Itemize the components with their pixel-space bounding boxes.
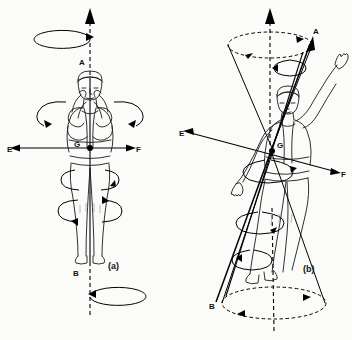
precession-cone-bottom-b: [222, 154, 326, 319]
axis-label-f-right: F: [136, 145, 141, 154]
centre-of-gravity-point: [269, 148, 275, 154]
panel-a: A B E F G (a): [7, 8, 146, 318]
transverse-axis-ef-a: [10, 145, 136, 152]
vertical-axis-arrowhead-b: [265, 8, 275, 24]
rotation-indicator-top-a: [34, 30, 94, 48]
figure-diagram: A B E F G (a): [0, 0, 352, 340]
axis-label-a-top: A: [79, 58, 85, 67]
centre-of-gravity-label: G: [277, 141, 283, 150]
rotation-indicator-bottom-a: [88, 287, 146, 305]
rotation-indicator-waist-b: [243, 160, 297, 183]
axis-label-e-left: E: [7, 145, 13, 154]
axis-arrowhead-a-top: [85, 8, 95, 24]
axis-label-f-right: F: [341, 170, 346, 179]
axis-label-b-bottom: B: [209, 302, 215, 311]
axis-label-e-left: E: [179, 129, 185, 138]
longitudinal-axis-ab-a: [85, 8, 95, 318]
transverse-axis-ef-b: [183, 128, 341, 175]
centre-of-gravity-label: G: [74, 140, 80, 149]
diagram-canvas: A B E F G (a): [0, 0, 352, 340]
human-figure-b: [231, 54, 348, 284]
panel-caption-b: (b): [303, 264, 315, 274]
panel-b: A B E F G (b): [179, 8, 348, 332]
axis-arrowhead-b-top: [306, 36, 315, 52]
centre-of-gravity-point: [87, 145, 93, 151]
panel-caption-a: (a): [108, 261, 119, 271]
axis-label-b-bottom: B: [73, 269, 79, 278]
axis-label-a-top: A: [313, 27, 319, 36]
rotation-indicator-knee-b: [236, 212, 284, 234]
